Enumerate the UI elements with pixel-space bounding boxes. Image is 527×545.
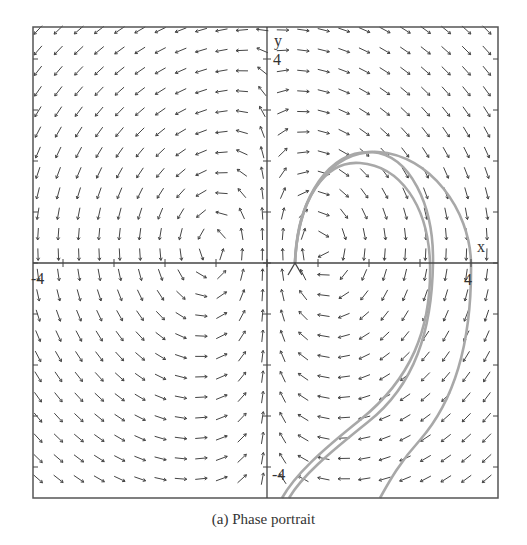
field-arrow [135, 108, 144, 116]
field-arrow [95, 107, 103, 116]
field-arrow [195, 336, 207, 337]
field-arrow [400, 67, 410, 74]
field-arrow [75, 107, 82, 117]
field-arrow [115, 394, 125, 401]
field-arrow [339, 189, 348, 197]
field-arrow [155, 353, 165, 359]
field-arrow [176, 129, 186, 135]
field-arrow [381, 311, 388, 320]
field-arrow [76, 331, 82, 342]
field-arrow [237, 169, 247, 176]
field-arrow [96, 147, 102, 157]
field-arrow [54, 434, 63, 442]
field-arrow [238, 352, 245, 362]
field-arrow [115, 87, 124, 95]
field-arrow [176, 109, 187, 115]
field-arrow [135, 27, 145, 33]
field-arrow [462, 46, 470, 54]
field-arrow [176, 169, 185, 177]
field-arrow [402, 148, 409, 158]
field-arrow [422, 107, 430, 116]
field-arrow [421, 47, 430, 54]
field-arrow [420, 476, 431, 482]
field-arrow [401, 352, 410, 360]
field-arrow [421, 393, 430, 401]
phase-portrait-figure: y 4 x 4 -4 -4 [0, 0, 527, 510]
field-arrow [298, 394, 308, 401]
field-arrow [157, 168, 165, 177]
field-arrow [116, 352, 124, 361]
field-arrow [196, 272, 206, 278]
field-arrow [400, 27, 410, 33]
field-arrow [484, 351, 490, 362]
field-arrow [55, 372, 62, 382]
field-arrow [462, 66, 470, 75]
field-arrow [380, 332, 389, 340]
field-arrow [95, 372, 103, 381]
field-arrow [443, 147, 449, 157]
field-arrow [462, 455, 471, 463]
field-arrow [382, 188, 388, 199]
field-arrow [114, 476, 125, 481]
field-arrow [400, 435, 411, 441]
field-arrow [401, 128, 409, 137]
field-arrow [99, 248, 100, 260]
field-arrow [280, 412, 286, 422]
field-arrow [195, 397, 207, 398]
field-arrow [299, 311, 307, 320]
field-arrow [96, 331, 102, 341]
field-arrow [176, 149, 186, 156]
field-arrow [94, 455, 104, 461]
field-arrow [359, 68, 370, 73]
field-arrow [483, 413, 491, 422]
field-arrow [156, 311, 164, 320]
field-arrow [280, 433, 286, 443]
field-arrow [299, 332, 308, 340]
field-arrow [96, 352, 103, 362]
field-arrow [260, 106, 266, 117]
field-arrow [422, 127, 429, 136]
field-arrow [463, 372, 470, 382]
field-arrow [239, 310, 245, 321]
field-arrow [176, 312, 186, 318]
field-arrow [238, 454, 247, 462]
field-arrow [361, 188, 368, 198]
field-arrow [56, 147, 61, 158]
field-arrow [236, 50, 248, 51]
field-arrow [155, 88, 165, 94]
field-arrow [422, 147, 429, 157]
field-arrow [442, 414, 451, 422]
field-arrow [380, 68, 390, 74]
field-arrow [359, 88, 369, 94]
field-arrow [380, 353, 390, 360]
field-arrow [360, 168, 368, 177]
field-arrow [196, 170, 207, 175]
field-arrow [177, 189, 185, 198]
field-arrow [135, 88, 145, 95]
field-arrow [56, 331, 61, 342]
field-arrow [400, 47, 410, 54]
field-arrow [115, 373, 124, 381]
field-arrow [75, 66, 83, 75]
field-arrow [420, 455, 430, 461]
field-arrow [156, 332, 165, 339]
field-arrow [95, 87, 103, 96]
field-arrow [54, 66, 62, 75]
field-arrow [339, 129, 350, 134]
field-arrow [442, 67, 451, 75]
field-arrow [33, 475, 42, 483]
start-marker-icon [288, 263, 302, 275]
field-arrow [359, 354, 370, 359]
field-arrow [360, 129, 370, 136]
field-arrow [34, 454, 43, 462]
field-arrow [442, 107, 449, 116]
field-arrow [401, 331, 409, 340]
field-arrow [198, 229, 204, 239]
x-tick-label-neg: -4 [31, 270, 44, 287]
field-arrow [137, 290, 142, 301]
field-arrow [421, 67, 430, 75]
field-arrow [298, 455, 308, 461]
field-arrow [400, 394, 410, 401]
field-arrow [380, 27, 391, 33]
field-arrow [421, 87, 430, 95]
